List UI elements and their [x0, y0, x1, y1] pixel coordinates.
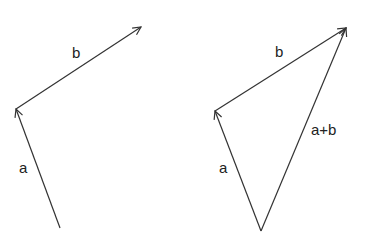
label-a: a	[19, 159, 28, 176]
vector-addition-diagram: b a b a a+b	[0, 0, 366, 239]
label-a: a	[219, 159, 228, 176]
label-b: b	[72, 44, 80, 61]
left-figure: b a	[16, 27, 141, 228]
vector-b-arrow	[215, 28, 346, 111]
right-figure: b a a+b	[215, 28, 346, 231]
vector-b-arrow	[16, 27, 141, 109]
label-a-plus-b: a+b	[311, 121, 336, 138]
label-b: b	[275, 43, 283, 60]
